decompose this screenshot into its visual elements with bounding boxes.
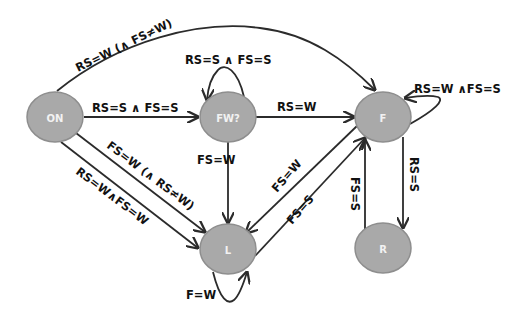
node-f: F [355,92,411,142]
edge-label-on-to-f: RS=W (∧ FS≠W) [73,16,174,75]
edge-label-on-to-fw: RS=S ∧ FS=S [92,101,178,115]
edge-label-r-to-f: FS=S [348,177,362,211]
edge-label-l-to-f: FS=S [284,192,317,227]
node-label: R [379,244,387,255]
node-label: ON [47,113,64,124]
node-label: F [380,113,387,124]
edge-label-fw-to-f: RS=W [277,100,317,114]
node-l: L [200,224,256,274]
edge-label-f-self-loop: RS=W ∧FS=S [414,82,501,96]
node-on: ON [27,92,83,142]
edge-label-fw-to-l: FS=W [197,153,236,167]
edge-label-f-to-r: RS=S [407,157,421,192]
node-r: R [355,223,411,273]
state-diagram: ON FW? F L R RS=W (∧ FS≠W) RS=S ∧ FS=S R… [0,0,525,319]
edge-label-f-to-l: FS=W [269,157,305,195]
node-label: L [225,245,232,256]
node-fw: FW? [200,92,256,142]
node-label: FW? [216,113,240,124]
edge-label-l-self-loop: F=W [186,288,216,302]
edge-l-self-loop [213,272,247,302]
edge-label-fw-self-loop: RS=S ∧ FS=S [185,53,271,67]
